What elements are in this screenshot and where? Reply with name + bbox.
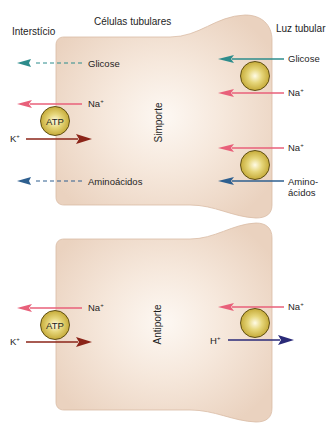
top-tubular-cell: [56, 15, 272, 218]
apical-sodium-label-1: Na+: [288, 87, 304, 98]
apical-amino-acids-label: Amino- ácidos: [288, 176, 318, 198]
basolateral-amino-acids-label: Aminoácidos: [88, 176, 142, 187]
sodium-hydrogen-antiporter: [240, 308, 270, 338]
bottom-basolateral-potassium-label: K+: [10, 336, 20, 347]
apical-sodium-label-2: Na+: [288, 142, 304, 153]
glucose-sodium-symporter: [240, 61, 270, 91]
bottom-apical-sodium-label: Na+: [288, 301, 304, 312]
tubular-lumen-header: Luz tubular: [276, 23, 325, 34]
tubular-cells-header: Células tubulares: [94, 16, 171, 27]
amino-acid-sodium-symporter: [240, 150, 270, 180]
bottom-apical-hydrogen-label: H+: [210, 335, 220, 346]
basolateral-glucose-label: Glicose: [88, 58, 120, 69]
diagram-canvas: [0, 0, 335, 431]
basolateral-potassium-label: K+: [10, 133, 20, 144]
interstitium-header: Interstício: [12, 26, 55, 37]
bottom-atp-pump: ATP: [40, 310, 70, 340]
basolateral-sodium-label: Na+: [88, 98, 104, 109]
bottom-basolateral-sodium-label: Na+: [88, 302, 104, 313]
apical-glucose-label: Glicose: [288, 53, 320, 64]
antiport-label: Antiporte: [152, 295, 163, 355]
symport-label: Simporte: [153, 98, 164, 148]
atp-pump: ATP: [40, 106, 70, 136]
